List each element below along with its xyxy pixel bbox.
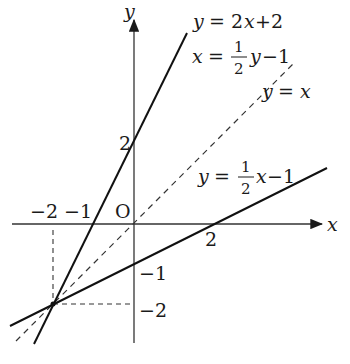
- x-tick--2: −2: [30, 200, 58, 222]
- y-tick--1: −1: [139, 262, 167, 284]
- svg-text:x: x: [192, 45, 203, 67]
- svg-text:1: 1: [241, 158, 251, 176]
- svg-text:−1: −1: [267, 165, 295, 187]
- shallow-line: [10, 168, 327, 326]
- svg-text:y: y: [192, 10, 204, 32]
- svg-text:y: y: [249, 45, 261, 67]
- x-axis-label: x: [327, 213, 338, 235]
- svg-text:y: y: [261, 80, 273, 102]
- svg-text:=: =: [208, 45, 224, 67]
- y-tick--2: −2: [139, 299, 167, 321]
- x-tick--1: −1: [64, 200, 92, 222]
- svg-text:2: 2: [241, 180, 251, 198]
- svg-text:=: =: [214, 165, 230, 187]
- svg-text:x: x: [256, 165, 267, 187]
- svg-text:= 2: = 2: [209, 10, 243, 32]
- svg-text:−1: −1: [262, 45, 290, 67]
- svg-text:+2: +2: [255, 10, 283, 32]
- svg-text:=: =: [278, 80, 294, 102]
- x-tick-2: 2: [205, 228, 217, 250]
- svg-text:x: x: [300, 80, 311, 102]
- label-steep-line-alt: x = 1 2 y −1: [192, 38, 290, 78]
- y-axis-label: y: [123, 0, 135, 22]
- svg-text:y: y: [197, 165, 209, 187]
- svg-text:x: x: [244, 10, 255, 32]
- y-tick-2: 2: [119, 132, 131, 154]
- svg-text:2: 2: [234, 60, 244, 78]
- origin-label: O: [115, 200, 131, 222]
- steep-line: [34, 33, 187, 344]
- label-identity-line: y = x: [261, 80, 311, 102]
- label-steep-line: y = 2 x +2: [192, 10, 283, 32]
- svg-text:1: 1: [234, 38, 244, 56]
- intersection-point: [51, 302, 56, 307]
- coordinate-diagram: x y O −2 −1 2 2 −1 −2 y = 2 x +2 x = 1 2…: [0, 0, 350, 364]
